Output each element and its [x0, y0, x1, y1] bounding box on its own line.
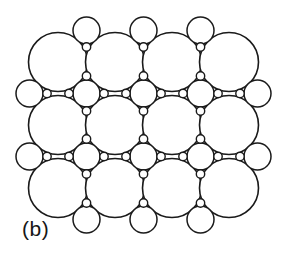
panel-label: (b) [22, 218, 49, 239]
small-circle-24 [82, 43, 90, 51]
small-circle-17 [139, 170, 147, 178]
small-circle-1 [82, 107, 90, 115]
small-circle-21 [196, 170, 204, 178]
small-circle-6 [122, 89, 130, 97]
medium-circles-edge-left-1 [16, 143, 43, 170]
small-circle-14 [65, 152, 73, 160]
small-circle-30 [43, 89, 51, 97]
small-circle-0 [82, 72, 90, 80]
medium-circles-edge-bottom-1 [130, 206, 157, 233]
medium-circles-interstitial-3 [73, 143, 100, 170]
small-circle-19 [157, 152, 165, 160]
small-circle-2 [65, 89, 73, 97]
small-circle-27 [82, 199, 90, 207]
medium-circles-edge-left-0 [16, 80, 43, 107]
small-circle-32 [236, 89, 244, 97]
medium-circles-edge-right-1 [244, 143, 271, 170]
medium-circles-interstitial-1 [130, 80, 157, 107]
small-circle-10 [179, 89, 187, 97]
small-circle-18 [122, 152, 130, 160]
medium-circles-edge-top-2 [187, 17, 214, 44]
medium-circles-edge-bottom-2 [187, 206, 214, 233]
small-circle-4 [139, 72, 147, 80]
medium-circles-edge-right-0 [244, 80, 271, 107]
medium-circles-interstitial-2 [187, 80, 214, 107]
small-circle-16 [139, 135, 147, 143]
small-circle-29 [196, 199, 204, 207]
small-circle-5 [139, 107, 147, 115]
medium-circles-edge-top-0 [73, 17, 100, 44]
small-circle-15 [100, 152, 108, 160]
small-circle-26 [196, 43, 204, 51]
small-circle-7 [157, 89, 165, 97]
small-circle-33 [236, 152, 244, 160]
large-circle-layer [29, 33, 259, 218]
medium-circles-edge-bottom-0 [73, 206, 100, 233]
circle-packing-figure: (b) [0, 0, 289, 264]
small-circle-20 [196, 135, 204, 143]
small-circle-9 [196, 107, 204, 115]
medium-circles-interstitial-5 [187, 143, 214, 170]
medium-circles-edge-top-1 [130, 17, 157, 44]
small-circle-13 [82, 170, 90, 178]
medium-circles-interstitial-4 [130, 143, 157, 170]
small-circle-23 [214, 152, 222, 160]
small-circle-11 [214, 89, 222, 97]
small-circle-3 [100, 89, 108, 97]
small-circle-12 [82, 135, 90, 143]
small-circle-8 [196, 72, 204, 80]
small-circle-28 [139, 199, 147, 207]
small-circle-22 [179, 152, 187, 160]
small-circle-25 [139, 43, 147, 51]
medium-circles-interstitial-0 [73, 80, 100, 107]
small-circle-31 [43, 152, 51, 160]
